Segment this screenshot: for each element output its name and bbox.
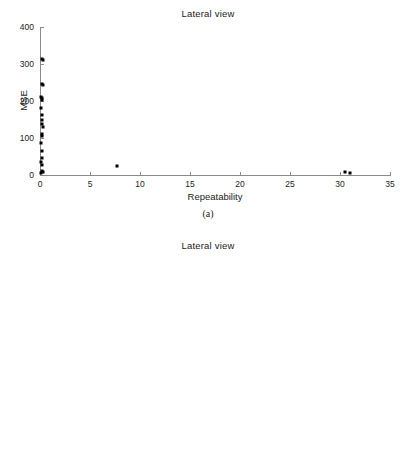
y-axis-tick xyxy=(40,175,44,176)
y-axis-tick-label: 300 xyxy=(20,59,34,69)
x-axis-tick xyxy=(240,172,241,176)
data-point xyxy=(40,141,43,144)
subfigure-caption-a: (a) xyxy=(0,208,416,219)
scatter-plot-a: 051015202530350100200300400Repeatability… xyxy=(40,27,390,175)
data-point xyxy=(116,164,119,167)
data-point xyxy=(40,98,43,101)
x-axis-tick xyxy=(390,172,391,176)
x-axis-tick xyxy=(90,172,91,176)
x-axis-line xyxy=(40,175,390,176)
data-point xyxy=(41,84,44,87)
y-axis-tick xyxy=(40,64,44,65)
x-axis-tick-label: 25 xyxy=(285,179,294,189)
data-point xyxy=(40,164,43,167)
data-point xyxy=(349,171,352,174)
data-point xyxy=(41,118,44,121)
x-axis-tick-label: 30 xyxy=(335,179,344,189)
x-axis-tick xyxy=(340,172,341,176)
x-axis-tick-label: 15 xyxy=(185,179,194,189)
data-point xyxy=(40,113,43,116)
x-axis-tick-label: 20 xyxy=(235,179,244,189)
figure-panel-b: Lateral view 11.21.41.61.822.22.42.62.80… xyxy=(0,235,416,469)
data-point xyxy=(42,58,45,61)
data-point xyxy=(343,171,346,174)
y-axis-tick-label: 400 xyxy=(20,22,34,32)
data-point xyxy=(40,135,43,138)
x-axis-tick-label: 35 xyxy=(385,179,394,189)
x-axis-tick-label: 10 xyxy=(135,179,144,189)
y-axis-tick xyxy=(40,27,44,28)
y-axis-tick xyxy=(40,138,44,139)
chart-title-a: Lateral view xyxy=(0,8,416,19)
figure-panel-a: Lateral view 051015202530350100200300400… xyxy=(0,0,416,235)
data-point xyxy=(42,125,45,128)
data-point xyxy=(40,107,43,110)
x-axis-tick xyxy=(290,172,291,176)
data-point xyxy=(41,149,44,152)
data-point xyxy=(40,172,43,175)
y-axis-tick-label: 0 xyxy=(29,170,34,180)
x-axis-tick xyxy=(140,172,141,176)
chart-title-b: Lateral view xyxy=(0,240,416,251)
x-axis-tick-label: 0 xyxy=(38,179,43,189)
x-axis-tick xyxy=(190,172,191,176)
data-point xyxy=(40,156,43,159)
y-axis-tick-label: 100 xyxy=(20,133,34,143)
y-axis-title: MSE xyxy=(18,90,29,111)
x-axis-title: Repeatability xyxy=(188,191,243,202)
data-point xyxy=(40,160,43,163)
x-axis-tick-label: 5 xyxy=(88,179,93,189)
